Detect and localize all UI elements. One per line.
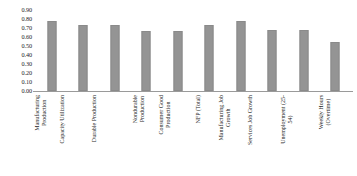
x-tick-label: Capacity Utilization (59, 95, 66, 144)
x-label-slot: Durable Production (99, 93, 131, 176)
bar[interactable] (47, 21, 56, 91)
bar-chart: 0.900.800.700.600.500.400.300.200.100.00… (0, 0, 357, 176)
bar-slot (257, 10, 289, 91)
x-tick-label: NondurableProduction (132, 95, 145, 123)
y-axis: 0.900.800.700.600.500.400.300.200.100.00 (0, 0, 34, 176)
y-tick-label: 0.90 (22, 7, 32, 13)
bar-slot (99, 10, 131, 91)
y-tick-label: 0.00 (22, 88, 32, 94)
x-tick-label-line: Production (139, 95, 146, 123)
x-tick-label: ManufacturingProduction (34, 95, 47, 131)
y-tick-label: 0.80 (22, 16, 32, 22)
bar[interactable] (110, 25, 119, 91)
x-tick-label: Consumer GoodProduction (158, 95, 171, 135)
x-tick-label: NFP (Total) (195, 95, 202, 124)
x-tick-label-line: NFP (Total) (195, 95, 201, 124)
bar[interactable] (142, 31, 151, 91)
x-axis-labels: ManufacturingProductionCapacity Utilizat… (36, 93, 351, 176)
x-tick-label-line: Services Job Growth (247, 95, 253, 145)
y-tick-label: 0.20 (22, 70, 32, 76)
x-tick-label-line: Production (41, 95, 48, 131)
bar-slot (288, 10, 320, 91)
x-tick-label-line: Production (165, 95, 172, 135)
x-tick-label-line: Consumer Good (158, 95, 164, 135)
x-tick-label: Weekly Hours(Overtime) (318, 95, 331, 129)
x-tick-label: Services Job Growth (247, 95, 254, 145)
y-tick-label: 0.30 (22, 61, 32, 67)
bar[interactable] (236, 21, 245, 91)
bar-slot (68, 10, 100, 91)
x-tick-label-line: Capacity Utilization (59, 95, 65, 144)
bar-slot (131, 10, 163, 91)
bar-slot (36, 10, 68, 91)
x-tick-label-line: Manufacturing Job (218, 95, 224, 141)
y-tick-label: 0.10 (22, 79, 32, 85)
bar-slot (225, 10, 257, 91)
x-tick-label-line: Unemployment (25- (279, 95, 285, 144)
bar[interactable] (299, 30, 308, 91)
x-tick-label-line: Nondurable (132, 95, 138, 123)
x-tick-label-line: 54) (286, 95, 293, 144)
plot-area (36, 10, 351, 91)
y-tick-label: 0.70 (22, 25, 32, 31)
bar[interactable] (205, 25, 214, 91)
x-label-slot: Consumer GoodProduction (162, 93, 194, 176)
x-tick-label-line: (Overtime) (325, 95, 332, 129)
x-tick-label-line: Growth (225, 95, 232, 141)
bar-slot (320, 10, 352, 91)
x-tick-label: Unemployment (25-54) (279, 95, 292, 144)
y-tick-label: 0.40 (22, 52, 32, 58)
bar[interactable] (331, 42, 340, 91)
x-tick-label-line: Weekly Hours (318, 95, 324, 129)
bar[interactable] (79, 25, 88, 91)
x-tick-label-line: Manufacturing (34, 95, 40, 131)
x-tick-label-line: Durable Production (91, 95, 97, 142)
x-label-slot: Weekly Hours(Overtime) (320, 93, 352, 176)
bar-slot (194, 10, 226, 91)
x-tick-label: Durable Production (91, 95, 98, 142)
x-tick-label: Manufacturing JobGrowth (218, 95, 231, 141)
y-tick-label: 0.50 (22, 43, 32, 49)
x-axis-baseline (33, 91, 353, 92)
x-label-slot: Unemployment (25-54) (288, 93, 320, 176)
bar[interactable] (173, 31, 182, 91)
y-tick-label: 0.60 (22, 34, 32, 40)
bar-slot (162, 10, 194, 91)
bar[interactable] (268, 30, 277, 91)
